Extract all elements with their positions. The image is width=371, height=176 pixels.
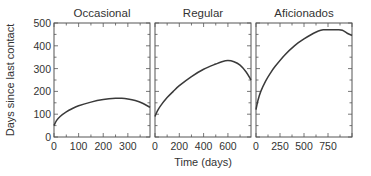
plot-frame-aficionados	[256, 23, 352, 137]
x-tick-label: 250	[271, 140, 289, 152]
x-tick-label: 100	[70, 140, 88, 152]
x-axis-label: Time (days)	[174, 156, 232, 168]
data-line-aficionados	[256, 30, 352, 110]
x-tick-label: 750	[319, 140, 337, 152]
y-tick-label: 0	[45, 131, 51, 143]
y-tick-label: 300	[33, 63, 51, 75]
chart-canvas: Occasional01002003000100200300400500Regu…	[0, 0, 371, 176]
x-tick-label: 200	[171, 140, 189, 152]
x-tick-label: 0	[51, 140, 57, 152]
data-line-regular	[155, 61, 251, 117]
y-axis-label: Days since last contact	[4, 24, 16, 137]
x-tick-label: 0	[253, 140, 259, 152]
x-tick-label: 300	[119, 140, 137, 152]
panel-title-regular: Regular	[183, 7, 223, 19]
panel-title-occasional: Occasional	[74, 7, 131, 19]
x-tick-label: 0	[152, 140, 158, 152]
x-tick-label: 500	[295, 140, 313, 152]
y-tick-label: 500	[33, 17, 51, 29]
y-tick-label: 400	[33, 40, 51, 52]
y-tick-label: 100	[33, 108, 51, 120]
plot-frame-regular	[155, 23, 251, 137]
x-tick-label: 200	[94, 140, 112, 152]
x-tick-label: 400	[195, 140, 213, 152]
x-tick-label: 600	[219, 140, 237, 152]
panel-title-aficionados: Aficionados	[274, 7, 334, 19]
data-line-occasional	[54, 98, 150, 125]
y-tick-label: 200	[33, 85, 51, 97]
plot-frame-occasional	[54, 23, 150, 137]
